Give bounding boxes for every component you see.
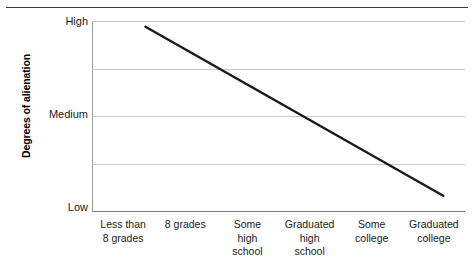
y-tick-label-high: High: [32, 15, 88, 27]
x-tick-label: Graduatedcollege: [395, 218, 472, 245]
chart-figure: Degrees of alienation High Medium Low Le…: [0, 0, 472, 271]
x-axis-tick-labels: Less than8 grades8 gradesSomehighschoolG…: [92, 218, 472, 270]
x-tick-label-line: Graduated: [395, 218, 472, 232]
y-tick-label-medium: Medium: [32, 108, 88, 120]
alienation-trend-line: [145, 27, 443, 196]
x-tick-label-line: 8 grades: [84, 232, 162, 246]
y-tick-label-low: Low: [32, 201, 88, 213]
data-series-line: [92, 21, 465, 211]
x-axis-line: [92, 211, 465, 212]
plot-area: [92, 21, 465, 211]
x-tick-label-line: school: [271, 245, 349, 259]
y-axis-tick-labels: High Medium Low: [30, 0, 88, 271]
x-tick-label-line: college: [395, 232, 472, 246]
